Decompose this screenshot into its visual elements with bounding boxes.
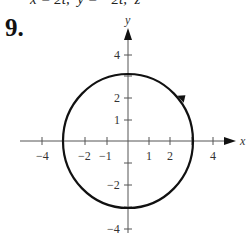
x-tick-label: 4 xyxy=(210,149,216,163)
y-tick-label: 1 xyxy=(114,113,120,127)
parametric-graph: −4 −2 −1 1 2 4 x 4 2 1 −2 −4 y xyxy=(0,0,250,233)
x-axis-arrow-icon xyxy=(224,137,236,145)
y-axis: 4 2 1 −2 −4 y xyxy=(107,13,132,233)
y-axis-arrow-icon xyxy=(124,28,132,40)
y-tick-label: 4 xyxy=(114,48,120,62)
y-axis-label: y xyxy=(124,13,131,27)
x-tick-label: 1 xyxy=(146,149,152,163)
y-tick-label: 2 xyxy=(114,91,120,105)
x-tick-label: −4 xyxy=(36,149,49,163)
y-tick-label: −2 xyxy=(107,178,120,192)
x-axis-label: x xyxy=(239,134,246,148)
x-tick-label: −2 xyxy=(78,149,91,163)
x-axis: −4 −2 −1 1 2 4 x xyxy=(20,134,246,163)
x-tick-label: −1 xyxy=(99,149,112,163)
x-tick-label: 2 xyxy=(167,149,173,163)
y-tick-label: −4 xyxy=(107,222,120,233)
